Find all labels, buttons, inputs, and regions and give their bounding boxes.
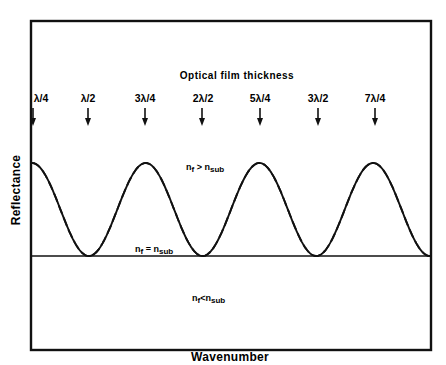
curve-label-equal: nf = nsub [135,244,173,256]
down-arrow-icons [30,108,378,126]
x-axis-label: Wavenumber [191,350,269,364]
marker-label: λ/4 [34,92,49,104]
down-arrow-icon [315,108,321,126]
reflectance-diagram: Optical film thickness λ/4 λ/2 3λ/4 2λ/2… [0,0,446,365]
chart-title: Optical film thickness [180,70,294,81]
marker-label: 3λ/2 [308,92,329,104]
curve-label-greater: nf > nsub [186,162,224,174]
marker-label: 3λ/4 [135,92,156,104]
marker-label: 5λ/4 [250,92,271,104]
y-axis-label: Reflectance [9,155,23,226]
curve-label-less: nf<nsub [192,293,225,305]
marker-label: λ/2 [81,92,96,104]
marker-label: 2λ/2 [193,92,214,104]
down-arrow-icon [85,108,91,126]
down-arrow-icon [257,108,263,126]
down-arrow-icon [372,108,378,126]
down-arrow-icon [142,108,148,126]
marker-label: 7λ/4 [365,92,386,104]
curve-lower-index [32,163,430,256]
thickness-markers: λ/4 λ/2 3λ/4 2λ/2 5λ/4 3λ/2 7λ/4 [34,92,386,104]
down-arrow-icon [199,108,205,126]
